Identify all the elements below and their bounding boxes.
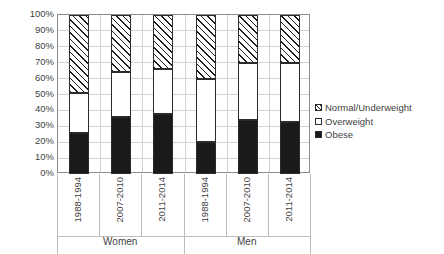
y-axis-tick-label: 10%: [2, 152, 54, 162]
bar-segment-normal-underweight[interactable]: [153, 15, 173, 69]
gridline: [58, 62, 309, 63]
gridline: [58, 110, 309, 111]
bar-segment-obese[interactable]: [111, 117, 131, 174]
x-axis-tick-mark: [141, 174, 142, 236]
stacked-bar[interactable]: [196, 15, 216, 172]
y-axis-tick-label: 30%: [2, 120, 54, 130]
bar-segment-normal-underweight[interactable]: [111, 15, 131, 72]
y-axis-tick-label: 70%: [2, 57, 54, 67]
legend-swatch-obese-icon: [315, 131, 322, 138]
legend-label-normal-underweight: Normal/Underweight: [325, 101, 412, 115]
category-separator: [100, 15, 101, 172]
bar-segment-overweight[interactable]: [153, 69, 173, 114]
gridline: [58, 142, 309, 143]
x-axis-group-line: [57, 236, 310, 237]
x-axis-group-label: Women: [55, 236, 185, 247]
gridline: [58, 94, 309, 95]
chart-legend: Normal/Underweight Overweight Obese: [315, 101, 412, 142]
bar-segment-overweight[interactable]: [238, 63, 258, 120]
bar-segment-obese[interactable]: [238, 120, 258, 174]
x-axis-tick-label: 2007-2010: [115, 177, 125, 222]
y-axis-tick-label: 60%: [2, 73, 54, 83]
bar-segment-obese[interactable]: [280, 122, 300, 174]
stacked-bar[interactable]: [238, 15, 258, 172]
y-axis-tick-label: 100%: [2, 9, 54, 19]
y-axis-tick-label: 90%: [2, 25, 54, 35]
legend-label-obese: Obese: [325, 128, 353, 142]
y-axis-tick-label: 50%: [2, 89, 54, 99]
stacked-bar[interactable]: [69, 15, 89, 172]
x-axis-tick-label: 1988-1994: [73, 177, 83, 222]
legend-item-obese: Obese: [315, 128, 412, 142]
legend-swatch-normal-underweight-icon: [315, 104, 322, 111]
bar-segment-obese[interactable]: [69, 133, 89, 174]
plot-area: [57, 14, 310, 173]
stacked-bar[interactable]: [280, 15, 300, 172]
bar-segment-obese[interactable]: [196, 142, 216, 174]
x-axis-tick-mark: [226, 174, 227, 236]
bar-segment-normal-underweight[interactable]: [238, 15, 258, 63]
bar-segment-obese[interactable]: [153, 114, 173, 174]
y-axis-tick-label: 40%: [2, 104, 54, 114]
x-axis: 1988-19942007-20102011-20141988-19942007…: [0, 173, 444, 254]
legend-item-normal-underweight: Normal/Underweight: [315, 101, 412, 115]
bar-segment-overweight[interactable]: [111, 72, 131, 117]
bar-segment-overweight[interactable]: [69, 93, 89, 133]
x-axis-group-separator: [310, 236, 311, 254]
x-axis-tick: 2011-2014: [268, 177, 310, 239]
x-axis-tick: 2011-2014: [141, 177, 183, 239]
gridline: [58, 46, 309, 47]
x-axis-tick-label: 2011-2014: [157, 177, 167, 222]
y-axis-tick-label: 80%: [2, 41, 54, 51]
x-axis-tick-mark: [57, 174, 58, 236]
gridline: [58, 158, 309, 159]
bar-segment-normal-underweight[interactable]: [280, 15, 300, 63]
legend-swatch-overweight-icon: [315, 118, 322, 125]
stacked-bar[interactable]: [111, 15, 131, 172]
x-axis-tick-label: 2011-2014: [284, 177, 294, 222]
x-axis-tick-mark: [99, 174, 100, 236]
gridline: [58, 30, 309, 31]
x-axis-tick: 1988-1994: [57, 177, 99, 239]
x-axis-tick: 2007-2010: [99, 177, 141, 239]
category-separator: [185, 15, 186, 172]
x-axis-tick: 2007-2010: [226, 177, 268, 239]
legend-label-overweight: Overweight: [325, 115, 373, 129]
legend-item-overweight: Overweight: [315, 115, 412, 129]
x-axis-tick-mark: [184, 174, 185, 236]
stacked-bar-chart: 100%90%80%70%60%50%40%30%20%10%0% 1988-1…: [0, 0, 444, 254]
bar-segment-normal-underweight[interactable]: [196, 15, 216, 79]
x-axis-tick-label: 1988-1994: [200, 177, 210, 222]
x-axis-tick: 1988-1994: [184, 177, 226, 239]
gridline: [58, 126, 309, 127]
bar-segment-overweight[interactable]: [196, 79, 216, 143]
bar-segment-normal-underweight[interactable]: [69, 15, 89, 93]
stacked-bar[interactable]: [153, 15, 173, 172]
x-axis-tick-mark: [310, 174, 311, 236]
bar-segment-overweight[interactable]: [280, 63, 300, 122]
category-separator: [227, 15, 228, 172]
x-axis-group-label: Men: [182, 236, 312, 247]
x-axis-group-separator: [57, 236, 58, 254]
y-axis-tick-label: 20%: [2, 136, 54, 146]
x-axis-tick-label: 2007-2010: [242, 177, 252, 222]
x-axis-tick-mark: [268, 174, 269, 236]
category-separator: [142, 15, 143, 172]
category-separator: [269, 15, 270, 172]
gridline: [58, 78, 309, 79]
